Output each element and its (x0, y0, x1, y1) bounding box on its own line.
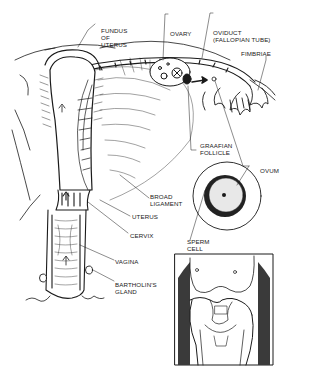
label-cervix: CERVIX (130, 232, 154, 239)
leader-lines (78, 13, 266, 281)
label-sperm-cell: SPERM CELL (187, 238, 210, 252)
label-ovum: OVUM (260, 167, 279, 174)
label-ovary: OVARY (170, 30, 192, 37)
uterus-body (45, 50, 100, 190)
label-uterus: UTERUS (132, 213, 158, 220)
ovum-release-arrow (192, 77, 216, 83)
cervix (56, 190, 90, 210)
label-graafian-follicle: GRAAFIAN FOLLICLE (200, 142, 232, 156)
label-bartholins-gland: BARTHOLIN'S GLAND (115, 281, 157, 295)
label-vagina: VAGINA (115, 258, 139, 265)
label-broad-ligament: BROAD LIGAMENT (150, 193, 182, 207)
inset-body-frame (175, 254, 273, 365)
label-oviduct: OVIDUCT (FALLOPIAN TUBE) (213, 29, 271, 43)
fimbriae (203, 80, 276, 115)
label-fimbriae: FIMBRIAE (241, 50, 271, 57)
label-fundus: FUNDUS OF UTERUS (101, 27, 127, 48)
arrow-up-vagina (63, 256, 69, 265)
vagina-rugae (55, 220, 77, 285)
ovary (150, 58, 191, 86)
